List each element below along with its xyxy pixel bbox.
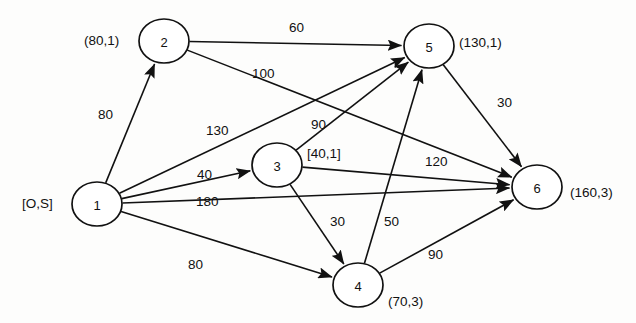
edge-3-to-5: [296, 62, 408, 150]
node-5[interactable]: 5: [404, 24, 454, 68]
edge-weight-2-5: 60: [289, 21, 304, 35]
node-4[interactable]: 4: [333, 263, 383, 307]
edge-weight-5-6: 30: [497, 96, 512, 110]
node-annotation-2: (80,1): [84, 34, 119, 48]
edge-weight-4-6: 90: [428, 248, 443, 262]
edge-2-to-6: [187, 50, 512, 177]
edge-weight-4-5: 50: [384, 215, 399, 229]
edge-4-to-5: [364, 70, 421, 264]
node-annotation-3: [40,1]: [307, 147, 341, 161]
node-3[interactable]: 3: [252, 143, 302, 187]
edge-1-to-3: [122, 171, 251, 199]
node-label-3: 3: [273, 159, 280, 174]
edge-1-to-6: [122, 188, 509, 203]
diagram-canvas: 123456 806010013090401201803050308090[O,…: [0, 0, 636, 323]
edge-4-to-6: [380, 200, 514, 273]
edge-1-to-4: [121, 211, 332, 276]
node-annotation-4: (70,3): [388, 295, 423, 309]
node-label-2: 2: [160, 35, 167, 50]
edge-5-to-6: [443, 65, 521, 167]
edge-weight-1-6: 180: [196, 195, 219, 209]
edge-weight-2-6: 100: [252, 67, 275, 81]
edge-1-to-2: [106, 64, 155, 183]
node-label-5: 5: [425, 40, 432, 55]
edge-weight-1-3: 40: [197, 168, 212, 182]
edge-weight-3-5: 90: [311, 118, 326, 132]
node-label-1: 1: [93, 198, 100, 213]
node-1[interactable]: 1: [72, 182, 122, 226]
edge-3-to-6: [302, 167, 509, 185]
node-annotation-5: (130,1): [459, 36, 502, 50]
graph-svg: 123456: [0, 0, 636, 323]
node-annotation-1: [O,S]: [22, 197, 53, 211]
edge-weight-1-5: 130: [206, 124, 229, 138]
edge-weight-1-4: 80: [188, 258, 203, 272]
edge-weight-1-2: 80: [98, 108, 113, 122]
node-layer: 123456: [72, 19, 562, 307]
edge-weight-3-6: 120: [425, 155, 448, 169]
node-6[interactable]: 6: [512, 165, 562, 209]
node-label-6: 6: [533, 181, 540, 196]
edge-2-to-5: [189, 41, 401, 45]
edge-weight-3-4: 30: [330, 215, 345, 229]
node-label-4: 4: [354, 279, 361, 294]
node-annotation-6: (160,3): [570, 186, 613, 200]
node-2[interactable]: 2: [139, 19, 189, 63]
